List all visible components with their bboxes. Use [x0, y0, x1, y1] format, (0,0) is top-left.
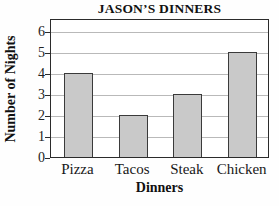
bar-chicken	[228, 52, 257, 157]
x-axis-tick-label: Pizza	[50, 159, 105, 179]
bar-tacos	[119, 115, 148, 157]
y-axis-tick-label: 5	[38, 46, 45, 60]
gridline	[51, 32, 268, 33]
bar-pizza	[64, 73, 93, 157]
y-axis-tick-label: 6	[38, 25, 45, 39]
bar-steak	[173, 94, 202, 157]
x-axis-tick-label: Steak	[160, 159, 215, 179]
plot-area	[50, 19, 269, 158]
bar-chart: JASON’S DINNERS Number of Nights 0123456…	[0, 0, 279, 206]
y-axis-tick-label: 3	[38, 88, 45, 102]
x-axis-tick-label: Chicken	[214, 159, 269, 179]
x-axis-title: Dinners	[50, 180, 269, 196]
chart-title: JASON’S DINNERS	[50, 1, 269, 17]
y-axis-title-container: Number of Nights	[0, 19, 22, 158]
y-axis-tick-label: 2	[38, 109, 45, 123]
x-axis-tick-label: Tacos	[105, 159, 160, 179]
y-axis-tick-label: 0	[38, 151, 45, 165]
y-axis-title: Number of Nights	[3, 35, 19, 142]
y-axis-tick-label: 1	[38, 130, 45, 144]
x-axis-tick-labels: PizzaTacosSteakChicken	[50, 159, 269, 181]
y-axis-tick-label: 4	[38, 67, 45, 81]
